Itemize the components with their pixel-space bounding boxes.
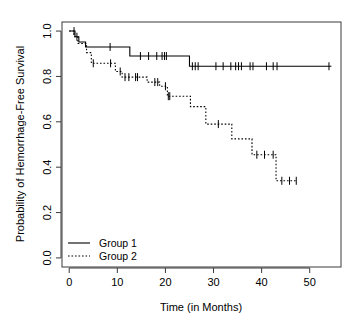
x-axis-tick-label: 30 <box>207 276 219 288</box>
y-axis-tick-label: 0.2 <box>41 205 53 220</box>
x-axis-tick-label: 40 <box>256 276 268 288</box>
y-axis-tick-label: 0.8 <box>41 69 53 84</box>
chart-canvas: 01020304050 0.00.20.40.60.81.0 Group 1Gr… <box>0 0 360 331</box>
legend-label-2: Group 2 <box>99 250 137 262</box>
x-axis-tick-label: 10 <box>111 276 123 288</box>
x-axis-title: Time (in Months) <box>160 301 242 313</box>
y-axis-tick-label: 0.6 <box>41 114 53 129</box>
y-axis-tick-label: 0.0 <box>41 250 53 265</box>
legend-label-1: Group 1 <box>99 237 137 249</box>
kaplan-meier-chart: 01020304050 0.00.20.40.60.81.0 Group 1Gr… <box>0 0 360 331</box>
y-axis-title: Probability of Hemorrhage-Free Survival <box>14 46 26 242</box>
y-axis-tick-label: 0.4 <box>41 160 53 175</box>
x-axis-tick-label: 50 <box>304 276 316 288</box>
x-axis-tick-label: 0 <box>66 276 72 288</box>
y-axis-tick-label: 1.0 <box>41 23 53 38</box>
x-axis-tick-label: 20 <box>159 276 171 288</box>
